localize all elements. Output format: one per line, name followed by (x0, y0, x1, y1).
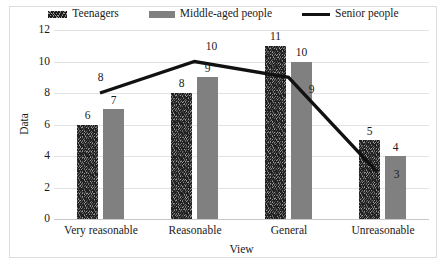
data-label-senior-general: 9 (294, 84, 329, 96)
x-category-reasonable: Reasonable (142, 224, 248, 236)
data-label-middle-aged-general: 10 (284, 47, 319, 59)
data-label-teenagers-unreasonable: 5 (352, 126, 387, 138)
data-label-middle-aged-reasonable: 9 (190, 63, 225, 75)
x-category-unreasonable: Unreasonable (330, 224, 436, 236)
data-label-middle-aged-unreasonable: 4 (378, 142, 413, 154)
data-label-senior-unreasonable: 3 (379, 169, 414, 181)
data-label-teenagers-general: 11 (258, 31, 293, 43)
data-label-senior-very-reasonable: 8 (83, 72, 118, 84)
x-category-very-reasonable: Very reasonable (48, 224, 154, 236)
data-label-senior-reasonable: 10 (194, 41, 229, 53)
chart-plot-area: Teenagers Middle-aged people Senior peop… (0, 0, 447, 270)
data-label-teenagers-reasonable: 8 (164, 78, 199, 90)
x-category-general: General (236, 224, 342, 236)
data-label-teenagers-very-reasonable: 6 (70, 110, 105, 122)
data-label-middle-aged-very-reasonable: 7 (96, 95, 131, 107)
